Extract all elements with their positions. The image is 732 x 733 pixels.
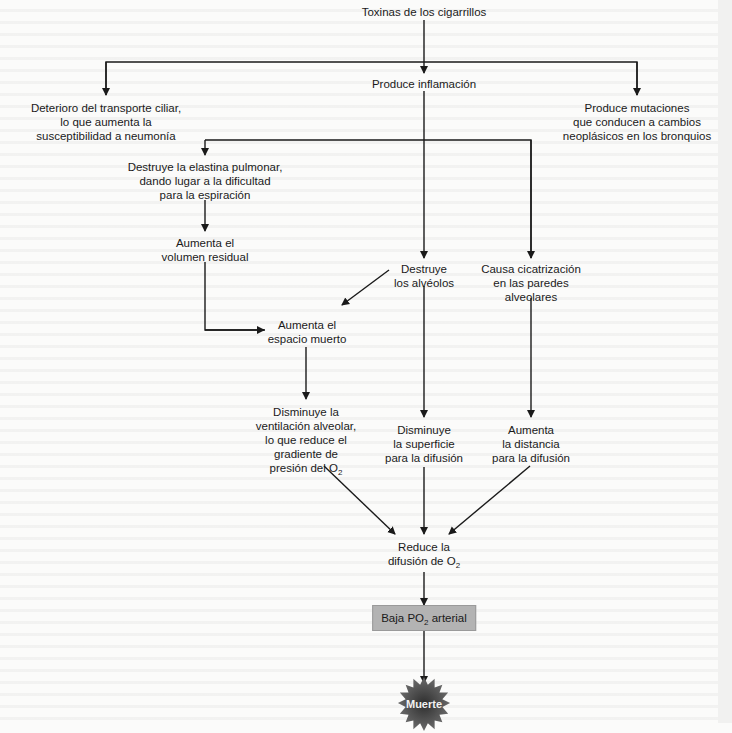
node-label-line: susceptibilidad a neumonía xyxy=(31,129,181,143)
node-label-line: los alvéolos xyxy=(394,276,454,290)
node-label: Produce inflamación xyxy=(372,78,476,90)
node-label: Toxinas de los cigarrillos xyxy=(362,6,487,18)
node-label-text: Baja PO xyxy=(381,612,424,624)
node-label-line: Aumenta el xyxy=(162,236,249,250)
node-alveoli: Destruye los alvéolos xyxy=(394,262,454,290)
node-label-line: Aumenta xyxy=(492,423,570,437)
node-label-line: espacio muerto xyxy=(268,332,347,346)
node-label-line: dando lugar a la dificultad xyxy=(128,174,283,188)
node-label-line: la distancia xyxy=(492,437,570,451)
node-label-text: arterial xyxy=(428,612,466,624)
node-reduced-diffusion: Reduce la difusión de O2 xyxy=(388,540,460,568)
node-label-line: para la difusión xyxy=(492,451,570,465)
node-label-line: alveolares xyxy=(481,290,581,304)
node-label-line: Produce mutaciones xyxy=(563,101,711,115)
node-label-line: que conducen a cambios xyxy=(563,115,711,129)
node-label-line: Reduce la xyxy=(388,540,460,554)
node-label-line: Disminuye la xyxy=(256,405,356,419)
node-scarring: Causa cicatrización en las paredes alveo… xyxy=(481,262,581,304)
node-label-line: lo que aumenta la xyxy=(31,115,181,129)
node-label-line: lo que reduce el xyxy=(256,433,356,447)
node-death: Muerte xyxy=(406,698,442,710)
node-low-arterial-po2: Baja PO2 arterial xyxy=(372,605,476,631)
node-inflammation: Produce inflamación xyxy=(372,77,476,91)
node-dead-space: Aumenta el espacio muerto xyxy=(268,318,347,346)
subscript: 2 xyxy=(456,561,460,570)
node-label-text: difusión de O xyxy=(388,555,456,567)
node-ciliary-transport: Deterioro del transporte ciliar, lo que … xyxy=(31,101,181,143)
node-label-line: presión del O2 xyxy=(256,461,356,475)
node-label-line: en las paredes xyxy=(481,276,581,290)
node-label-line: Destruye xyxy=(394,262,454,276)
node-label-line: Deterioro del transporte ciliar, xyxy=(31,101,181,115)
node-label-line: Destruye la elastina pulmonar, xyxy=(128,160,283,174)
node-elastin: Destruye la elastina pulmonar, dando lug… xyxy=(128,160,283,202)
node-label-line: ventilación alveolar, xyxy=(256,419,356,433)
node-label-line: neoplásicos en los bronquios xyxy=(563,129,711,143)
subscript: 2 xyxy=(338,468,342,477)
node-label-line: para la espiración xyxy=(128,188,283,202)
node-label-line: Causa cicatrización xyxy=(481,262,581,276)
node-label-line: gradiente de xyxy=(256,447,356,461)
node-label: Muerte xyxy=(406,698,442,710)
node-label-line: difusión de O2 xyxy=(388,554,460,568)
node-label-line: Aumenta el xyxy=(268,318,347,332)
node-label-line: Disminuye xyxy=(385,423,463,437)
node-label-line: para la difusión xyxy=(385,451,463,465)
node-label-line: volumen residual xyxy=(162,250,249,264)
node-cigarette-toxins: Toxinas de los cigarrillos xyxy=(362,5,487,19)
node-label-line: la superficie xyxy=(385,437,463,451)
node-residual-volume: Aumenta el volumen residual xyxy=(162,236,249,264)
node-label-text: presión del O xyxy=(270,462,338,474)
node-mutations: Produce mutaciones que conducen a cambio… xyxy=(563,101,711,143)
node-surface-area: Disminuye la superficie para la difusión xyxy=(385,423,463,465)
node-diffusion-distance: Aumenta la distancia para la difusión xyxy=(492,423,570,465)
node-alveolar-ventilation: Disminuye la ventilación alveolar, lo qu… xyxy=(256,405,356,475)
